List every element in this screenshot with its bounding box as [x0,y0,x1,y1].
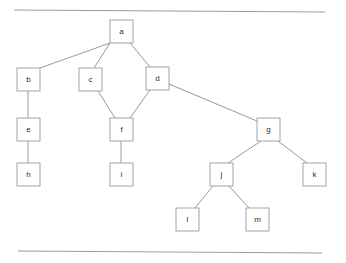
top-rule [14,10,325,12]
node-l[interactable]: l [176,208,199,231]
node-m[interactable]: m [246,208,269,231]
edge-j-m [229,186,249,208]
edge-a-b [40,43,110,68]
node-label-c: c [89,75,93,84]
node-b[interactable]: b [17,68,40,91]
nodes-layer: abcdefghijklm [17,20,326,231]
node-label-l: l [187,215,189,224]
bottom-rule [18,251,322,253]
edge-d-f [130,90,150,118]
node-label-a: a [119,27,124,36]
node-label-d: d [155,74,159,83]
graph-canvas: abcdefghijklm [0,0,346,263]
node-label-h: h [26,170,30,179]
node-k[interactable]: k [303,163,326,186]
diagram-page: abcdefghijklm [0,0,346,263]
edge-g-k [278,141,307,163]
edge-j-l [195,186,213,208]
node-label-g: g [266,125,270,134]
node-label-m: m [254,215,261,224]
node-j[interactable]: j [210,163,233,186]
node-d[interactable]: d [146,67,169,90]
node-label-i: i [121,170,123,179]
edge-g-j [228,141,261,163]
edge-a-d [130,43,150,67]
node-label-b: b [26,75,31,84]
node-label-e: e [26,125,31,134]
node-a[interactable]: a [110,20,133,43]
node-label-j: j [220,170,223,179]
node-f[interactable]: f [110,118,133,141]
edge-a-c [94,43,110,68]
node-c[interactable]: c [79,68,102,91]
node-h[interactable]: h [17,163,40,186]
node-e[interactable]: e [17,118,40,141]
edge-c-f [98,91,115,118]
node-i[interactable]: i [110,163,133,186]
node-g[interactable]: g [257,118,280,141]
edge-d-g [169,84,257,121]
